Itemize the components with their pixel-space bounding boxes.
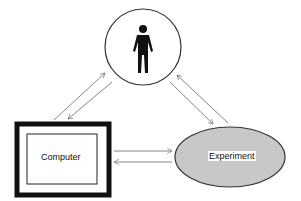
arrow-experiment-to-human <box>177 75 228 123</box>
arrow-computer-to-human <box>54 73 105 120</box>
human-node <box>105 9 181 85</box>
experiment-label: Experiment <box>208 151 256 161</box>
diagram-canvas <box>0 0 301 201</box>
computer-label: Computer <box>41 152 81 162</box>
